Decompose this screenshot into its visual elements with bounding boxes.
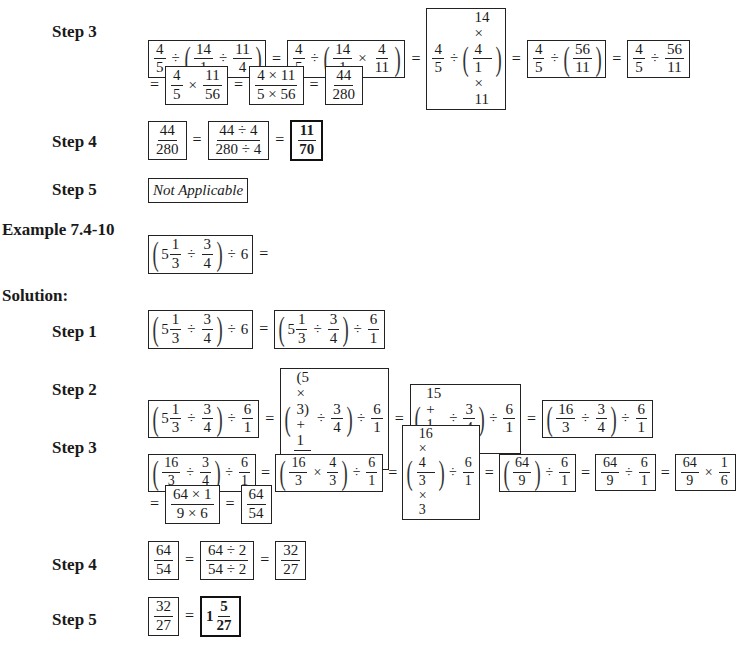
problem-expression: (513÷34)÷6 = [148, 235, 270, 274]
step-label: Step 2 [52, 380, 97, 400]
step5-prev: Not Applicable [148, 178, 248, 203]
step3-prev-line2: = 45×1156 = 4 × 115 × 56 = 44280 [148, 66, 363, 105]
step-label: Step 3 [52, 438, 97, 458]
step-label: Step 3 [52, 22, 97, 42]
step5: 3227 = 1527 [148, 596, 241, 637]
solution-label: Solution: [2, 286, 68, 306]
not-applicable-box: Not Applicable [148, 178, 248, 203]
step-label: Step 5 [52, 610, 97, 630]
step4-prev: 44280 = 44 ÷ 4280 ÷ 4 = 1170 [148, 120, 323, 161]
step1: (513÷34)÷6 = (513÷34)÷61 [148, 310, 385, 349]
step-label: Step 5 [52, 180, 97, 200]
step3-line2: = 64 × 19 × 6 = 6454 [148, 485, 272, 524]
step-label: Step 1 [52, 322, 97, 342]
example-title: Example 7.4-10 [2, 220, 114, 240]
step4: 6454 = 64 ÷ 254 ÷ 2 = 3227 [148, 541, 306, 580]
step-label: Step 4 [52, 555, 97, 575]
step-label: Step 4 [52, 132, 97, 152]
